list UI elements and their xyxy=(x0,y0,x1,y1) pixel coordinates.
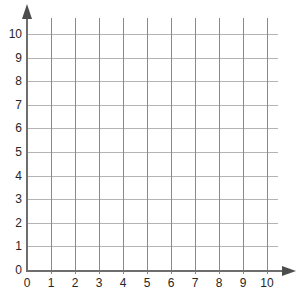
y-tick-label-8: 8 xyxy=(15,75,22,87)
gridline-vertical-7 xyxy=(195,18,196,274)
y-tick-label-7: 7 xyxy=(15,99,22,111)
gridline-vertical-6 xyxy=(171,18,172,274)
gridline-horizontal-4 xyxy=(27,176,278,177)
coordinate-grid-figure: 012345678910012345678910 xyxy=(0,0,301,295)
x-axis-arrow-icon xyxy=(282,266,296,276)
gridline-vertical-10 xyxy=(267,18,268,274)
x-tick-label-8: 8 xyxy=(216,277,223,289)
y-tick-label-2: 2 xyxy=(15,217,22,229)
y-tick-label-4: 4 xyxy=(15,170,22,182)
y-axis-arrow-icon xyxy=(22,4,32,19)
x-tick-label-10: 10 xyxy=(260,277,273,289)
x-tick-label-5: 5 xyxy=(144,277,151,289)
gridline-vertical-1 xyxy=(51,18,52,274)
x-axis-line xyxy=(26,270,283,272)
x-tick-label-1: 1 xyxy=(48,277,55,289)
gridline-vertical-9 xyxy=(243,18,244,274)
y-axis-line xyxy=(26,16,28,272)
y-tick-label-3: 3 xyxy=(15,193,22,205)
y-tick-label-0: 0 xyxy=(15,264,22,276)
y-tick-label-1: 1 xyxy=(15,240,22,252)
y-tick-label-6: 6 xyxy=(15,122,22,134)
x-tick-label-4: 4 xyxy=(120,277,127,289)
x-tick-label-3: 3 xyxy=(96,277,103,289)
gridline-horizontal-5 xyxy=(27,152,278,153)
gridline-vertical-5 xyxy=(147,18,148,274)
gridline-horizontal-2 xyxy=(27,223,278,224)
gridline-horizontal-9 xyxy=(27,58,278,59)
gridline-vertical-3 xyxy=(99,18,100,274)
x-tick-label-2: 2 xyxy=(72,277,79,289)
y-tick-label-5: 5 xyxy=(15,146,22,158)
gridline-vertical-8 xyxy=(219,18,220,274)
x-tick-label-7: 7 xyxy=(192,277,199,289)
gridline-horizontal-1 xyxy=(27,246,278,247)
gridline-horizontal-3 xyxy=(27,199,278,200)
y-tick-label-10: 10 xyxy=(9,28,22,40)
x-tick-label-0: 0 xyxy=(24,277,31,289)
gridline-vertical-2 xyxy=(75,18,76,274)
gridline-horizontal-7 xyxy=(27,105,278,106)
gridline-horizontal-10 xyxy=(27,34,278,35)
x-tick-label-9: 9 xyxy=(240,277,247,289)
gridline-horizontal-8 xyxy=(27,81,278,82)
gridline-horizontal-6 xyxy=(27,128,278,129)
gridline-vertical-4 xyxy=(123,18,124,274)
x-tick-label-6: 6 xyxy=(168,277,175,289)
y-tick-label-9: 9 xyxy=(15,52,22,64)
